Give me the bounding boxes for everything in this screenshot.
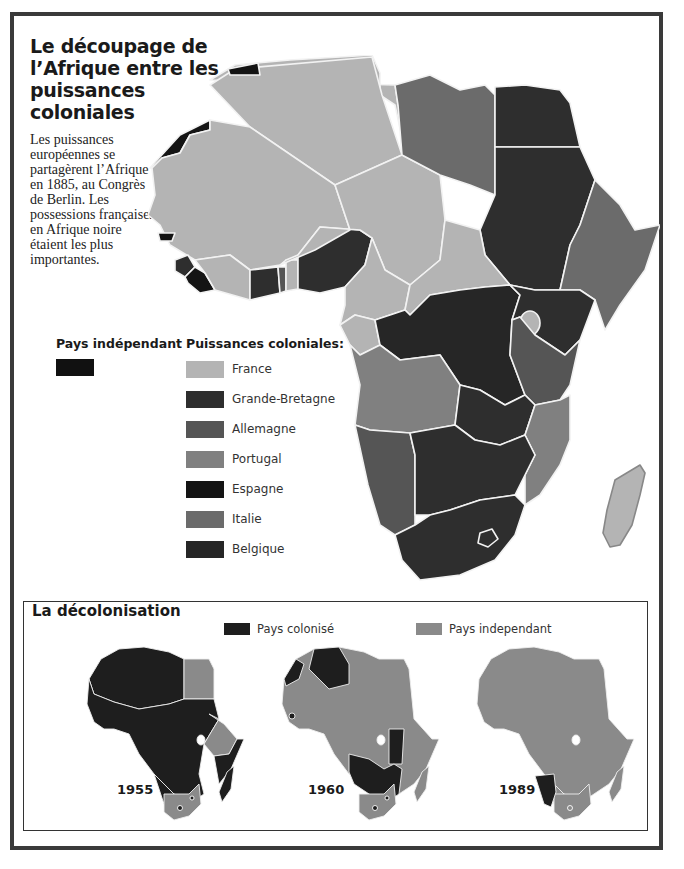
legend-label: Grande-Bretagne xyxy=(232,392,335,406)
swatch-independent xyxy=(56,359,94,376)
legend-colonial-powers: Puissances coloniales: France Grande-Bre… xyxy=(186,336,386,561)
swatch-espagne xyxy=(186,481,224,498)
region-portuguese-guinea xyxy=(158,233,175,241)
map-1955 xyxy=(59,644,249,824)
decolonisation-title: La décolonisation xyxy=(32,602,181,620)
legend-independent-decol: Pays independant xyxy=(416,622,552,636)
intro-text: Les puissances européennes se partagèren… xyxy=(30,132,155,267)
legend-item-allemagne: Allemagne xyxy=(186,419,296,439)
legend-item-grande-bretagne: Grande-Bretagne xyxy=(186,389,335,409)
year-label-1989: 1989 xyxy=(499,782,535,797)
swatch-colonised xyxy=(224,623,250,635)
legend-colonised: Pays colonisé xyxy=(224,622,334,636)
legend-label: Portugal xyxy=(232,452,282,466)
region-togo xyxy=(278,267,286,293)
legend-item-portugal: Portugal xyxy=(186,449,282,469)
year-label-1960: 1960 xyxy=(308,782,344,797)
swatch-allemagne xyxy=(186,421,224,438)
legend-label: Italie xyxy=(232,512,262,526)
legend-label: France xyxy=(232,362,272,376)
legend-label: Espagne xyxy=(232,482,283,496)
year-label-1955: 1955 xyxy=(117,782,153,797)
region-dahomey xyxy=(286,260,298,291)
legend-colonised-label: Pays colonisé xyxy=(257,622,334,636)
legend-label: Allemagne xyxy=(232,422,296,436)
legend-item-espagne: Espagne xyxy=(186,479,283,499)
legend-label: Belgique xyxy=(232,542,285,556)
swatch-belgique xyxy=(186,541,224,558)
region-egypt xyxy=(495,85,580,147)
region-madagascar xyxy=(603,465,645,547)
legend-item-france: France xyxy=(186,359,272,379)
legend-item-italie: Italie xyxy=(186,509,262,529)
swatch-italie xyxy=(186,511,224,528)
legend-independent: Pays indépendant xyxy=(56,336,182,376)
map-1960 xyxy=(254,644,444,824)
swatch-independent-decol xyxy=(416,623,442,635)
swatch-grande-bretagne xyxy=(186,391,224,408)
map-1989 xyxy=(449,644,639,824)
legend-item-belgique: Belgique xyxy=(186,539,285,559)
legend-independent-decol-label: Pays independant xyxy=(449,622,552,636)
decolonisation-panel: La décolonisation Pays colonisé Pays ind… xyxy=(23,601,648,831)
legend-colonial-heading: Puissances coloniales: xyxy=(186,336,386,351)
legend-independent-heading: Pays indépendant xyxy=(56,336,182,351)
swatch-portugal xyxy=(186,451,224,468)
region-gold-coast xyxy=(250,267,280,300)
swatch-france xyxy=(186,361,224,378)
